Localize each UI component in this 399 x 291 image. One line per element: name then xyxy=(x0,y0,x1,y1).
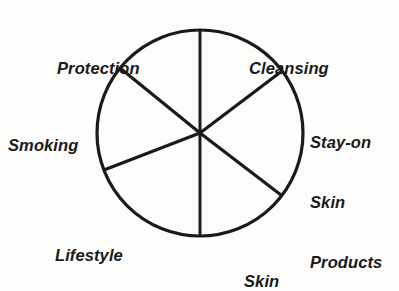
wheel-label-stay-on-skin-products-line2: Skin xyxy=(310,192,382,212)
wheel-label-skin-condition: Skin Condition xyxy=(244,231,322,291)
wheel-label-skin-condition-line1: Skin xyxy=(244,271,322,291)
wheel-label-smoking: Smoking xyxy=(8,98,78,193)
wheel-label-lifestyle: Lifestyle xyxy=(55,208,123,291)
wheel-label-smoking-text: Smoking xyxy=(8,136,78,155)
wheel-label-protection-text: Protection xyxy=(57,59,140,78)
wheel-spoke-lower-left xyxy=(104,133,200,170)
wheel-label-stay-on-skin-products-line1: Stay-on xyxy=(310,132,382,152)
wheel-label-lifestyle-text: Lifestyle xyxy=(55,246,123,265)
wheel-spoke-lower-right xyxy=(200,133,281,195)
skin-care-wheel-diagram: Protection Cleansing Stay-on Skin Produc… xyxy=(0,0,399,291)
wheel-label-cleansing-text: Cleansing xyxy=(249,59,329,78)
